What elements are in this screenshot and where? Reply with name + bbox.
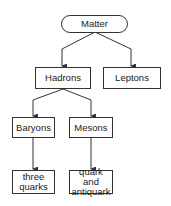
node-label: Hadrons <box>45 73 81 83</box>
node-label: three quarks <box>17 172 50 192</box>
edge-matter-leptons <box>95 32 131 61</box>
node-label: Leptons <box>115 73 149 83</box>
node-baryons: Baryons <box>12 117 55 138</box>
edge-hadrons-baryons <box>33 89 63 111</box>
node-label: Matter <box>81 19 108 29</box>
edge-hadrons-mesons <box>63 89 91 111</box>
node-leptons: Leptons <box>103 67 161 89</box>
edge-matter-hadrons <box>62 32 95 61</box>
node-quark-and-antiquark: quark and antiquark <box>69 170 113 194</box>
node-three-quarks: three quarks <box>12 170 55 194</box>
node-label: Mesons <box>74 123 107 133</box>
node-label: Baryons <box>16 123 51 133</box>
node-label: quark and antiquark <box>71 167 111 197</box>
node-matter: Matter <box>61 15 128 33</box>
node-mesons: Mesons <box>69 117 113 138</box>
node-hadrons: Hadrons <box>35 67 91 89</box>
